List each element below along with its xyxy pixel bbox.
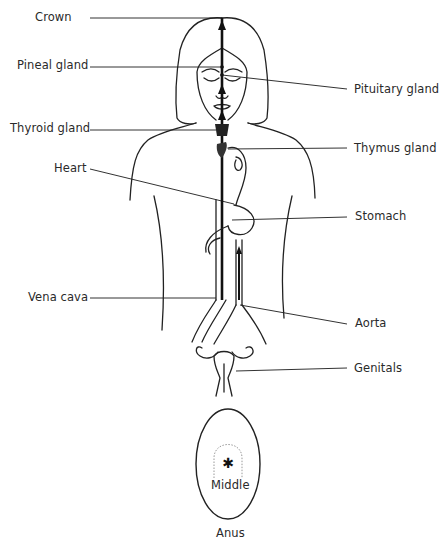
root-oval: ✱ xyxy=(196,409,260,519)
svg-text:✱: ✱ xyxy=(222,455,234,471)
label-vena-cava: Vena cava xyxy=(28,290,88,304)
genital-organ xyxy=(196,347,253,396)
label-stomach: Stomach xyxy=(355,209,406,223)
label-middle: Middle xyxy=(211,478,250,492)
label-pineal-gland: Pineal gland xyxy=(17,58,88,72)
label-thymus-gland: Thymus gland xyxy=(354,141,437,155)
label-genitals: Genitals xyxy=(354,361,402,375)
vessels xyxy=(192,200,266,344)
label-aorta: Aorta xyxy=(355,316,387,330)
label-thyroid-gland: Thyroid gland xyxy=(10,121,90,135)
label-pituitary-gland: Pituitary gland xyxy=(354,82,439,96)
label-anus: Anus xyxy=(216,526,245,540)
heart-stomach xyxy=(206,147,254,254)
central-channel xyxy=(218,18,226,300)
label-heart: Heart xyxy=(54,161,87,175)
label-crown: Crown xyxy=(35,10,72,24)
